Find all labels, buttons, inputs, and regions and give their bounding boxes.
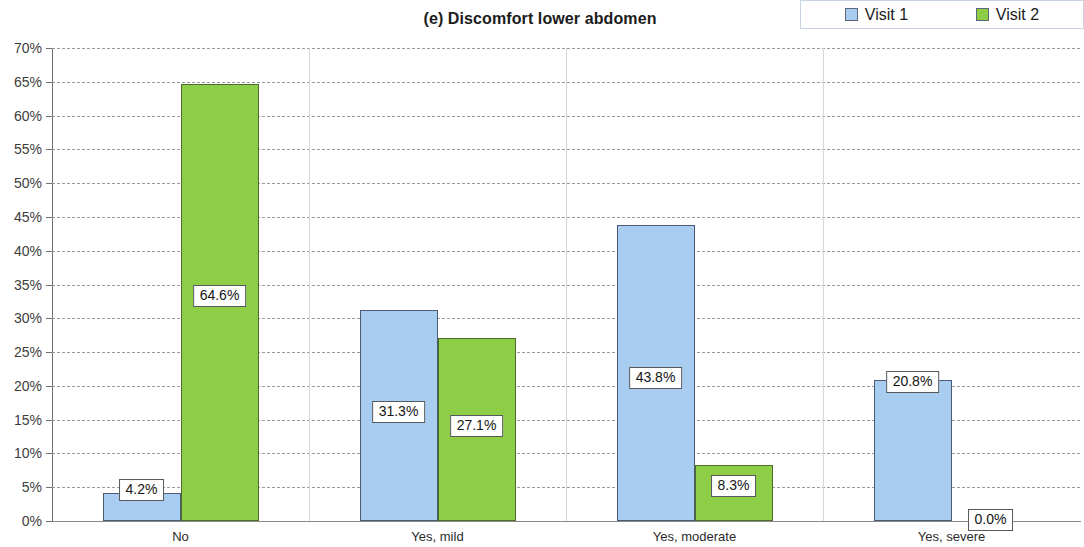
y-axis-tick [46,183,52,184]
y-axis-tick [46,149,52,150]
x-axis-category-label: Yes, moderate [653,529,736,544]
y-axis-tick-label: 20% [0,378,42,394]
y-axis-tick [46,217,52,218]
y-axis-tick [46,420,52,421]
category-separator [566,48,567,521]
y-axis-tick-label: 15% [0,412,42,428]
y-axis-tick-label: 25% [0,344,42,360]
bar-value-label: 64.6% [193,285,247,307]
legend-label-visit-2: Visit 2 [996,6,1039,24]
y-axis-tick-label: 70% [0,40,42,56]
y-axis-tick [46,386,52,387]
bar-value-label: 43.8% [629,367,683,389]
y-axis-tick [46,453,52,454]
legend-item-visit-1[interactable]: Visit 1 [845,6,908,24]
y-axis-tick-label: 55% [0,141,42,157]
legend-label-visit-1: Visit 1 [865,6,908,24]
y-axis-tick-label: 45% [0,209,42,225]
y-axis-tick [46,318,52,319]
y-axis-tick-label: 65% [0,74,42,90]
bar-visit-1 [874,380,952,521]
x-axis-category-label: Yes, mild [411,529,463,544]
bar-value-label: 27.1% [450,415,504,437]
y-axis-tick-label: 0% [0,513,42,529]
y-axis-tick [46,521,52,522]
y-axis-tick [46,352,52,353]
bar-value-label: 8.3% [711,475,757,497]
gridline [52,521,1080,522]
chart-title: (e) Discomfort lower abdomen [330,10,750,28]
y-axis-tick-label: 10% [0,445,42,461]
y-axis-tick [46,251,52,252]
y-axis-tick-label: 60% [0,108,42,124]
y-axis-tick-label: 5% [0,479,42,495]
y-axis-tick [46,285,52,286]
y-axis-tick-label: 40% [0,243,42,259]
y-axis-tick [46,82,52,83]
chart-legend: Visit 1 Visit 2 [800,0,1084,29]
x-axis-category-label: No [172,529,189,544]
bar-value-label: 0.0% [968,509,1014,531]
y-axis-tick [46,48,52,49]
legend-swatch-icon-visit-2 [976,8,989,21]
category-separator [309,48,310,521]
y-axis-tick-label: 30% [0,310,42,326]
bar-value-label: 20.8% [886,371,940,393]
y-axis-tick-label: 50% [0,175,42,191]
y-axis-tick [46,116,52,117]
bar-value-label: 31.3% [372,401,426,423]
x-axis-category-label: Yes, severe [918,529,985,544]
category-separator [823,48,824,521]
y-axis-tick-label: 35% [0,277,42,293]
bar-chart: (e) Discomfort lower abdomen Visit 1 Vis… [0,0,1084,547]
y-axis-tick [46,487,52,488]
legend-swatch-icon-visit-1 [845,8,858,21]
bar-value-label: 4.2% [119,479,165,501]
legend-item-visit-2[interactable]: Visit 2 [976,6,1039,24]
